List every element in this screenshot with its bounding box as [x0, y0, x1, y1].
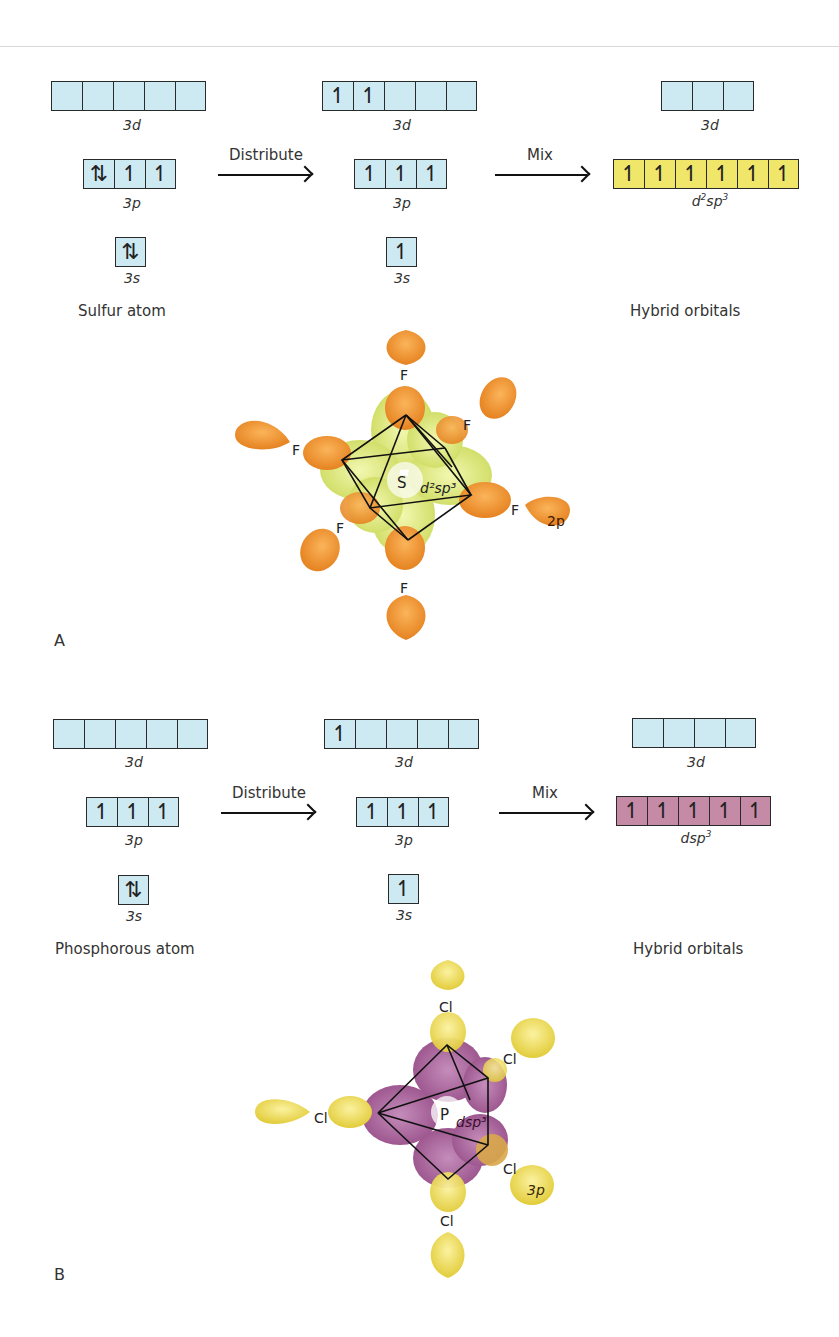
b-ground-3d-row: [53, 719, 208, 749]
b-hybrid-orbitals-row: ↿ ↿ ↿ ↿ ↿: [616, 796, 771, 826]
orbital-box: [146, 719, 177, 749]
b-distribute-label: Distribute: [209, 784, 329, 802]
b-excited-3p-label: 3p: [324, 832, 484, 848]
orbital-box: [448, 719, 479, 749]
orbital-box: ↿: [117, 797, 148, 827]
b-atom-caption: Phosphorous atom: [55, 940, 195, 958]
pcl5-hybrid-label: dsp³: [456, 1114, 487, 1130]
b-excited-3s-label: 3s: [324, 907, 484, 923]
orbital-box: ↿: [148, 797, 179, 827]
b-excited-3d-row: ↿: [324, 719, 479, 749]
b-ground-3d-label: 3d: [54, 754, 214, 770]
b-excited-3p-row: ↿ ↿ ↿: [356, 797, 449, 827]
orbital-box: [177, 719, 208, 749]
pcl5-ligand-label-bottom: Cl: [440, 1213, 454, 1229]
orbital-box: ↿: [709, 796, 740, 826]
b-hybrid-3d-label: 3d: [616, 754, 776, 770]
orbital-box: ↿: [387, 797, 418, 827]
orbital-box: ⇅: [118, 875, 149, 905]
orbital-box: [663, 718, 694, 748]
b-mix-arrow: [499, 812, 591, 814]
label-sup: 3: [706, 829, 712, 839]
orbital-box: [386, 719, 417, 749]
orbital-box: [417, 719, 448, 749]
orbital-box: ↿: [647, 796, 678, 826]
orbital-box: [84, 719, 115, 749]
orbital-box: ↿: [740, 796, 771, 826]
b-ground-3p-label: 3p: [54, 832, 214, 848]
b-mix-label: Mix: [485, 784, 605, 802]
orbital-box: ↿: [388, 874, 419, 904]
orbital-box: [115, 719, 146, 749]
b-excited-3d-label: 3d: [324, 754, 484, 770]
b-excited-3s-row: ↿: [388, 874, 419, 904]
panel-b: 3d ↿ ↿ ↿ 3p ⇅ 3s Phosphorous atom Distri…: [0, 0, 839, 1337]
orbital-box: ↿: [678, 796, 709, 826]
pcl5-ligand-label-upper-right: Cl: [503, 1051, 517, 1067]
pcl5-ligand-label-left: Cl: [314, 1110, 328, 1126]
b-ground-3p-row: ↿ ↿ ↿: [86, 797, 179, 827]
b-distribute-arrow: [221, 812, 313, 814]
orbital-box: [694, 718, 725, 748]
pcl5-molecule-diagram: P dsp³ Cl Cl Cl Cl Cl 3p: [240, 960, 580, 1280]
b-hybrid-caption: Hybrid orbitals: [633, 940, 743, 958]
b-hybrid-3d-row: [632, 718, 756, 748]
pcl5-ligand-label-top: Cl: [439, 999, 453, 1015]
orbital-box: [53, 719, 84, 749]
orbital-box: [632, 718, 663, 748]
pcl5-center-atom: P: [440, 1106, 449, 1124]
orbital-box: ↿: [86, 797, 117, 827]
panel-letter-b: B: [54, 1265, 65, 1284]
orbital-box: [355, 719, 386, 749]
orbital-box: ↿: [324, 719, 355, 749]
pcl5-ligand-label-lower-right: Cl: [503, 1161, 517, 1177]
b-hybrid-label: dsp3: [616, 829, 776, 846]
b-ground-3s-label: 3s: [54, 908, 214, 924]
orbital-box: ↿: [616, 796, 647, 826]
pcl5-ligand-orbital-label: 3p: [527, 1182, 545, 1198]
orbital-box: ↿: [418, 797, 449, 827]
orbital-box: ↿: [356, 797, 387, 827]
b-ground-3s-row: ⇅: [118, 875, 149, 905]
label-part: dsp: [681, 830, 706, 846]
orbital-box: [725, 718, 756, 748]
